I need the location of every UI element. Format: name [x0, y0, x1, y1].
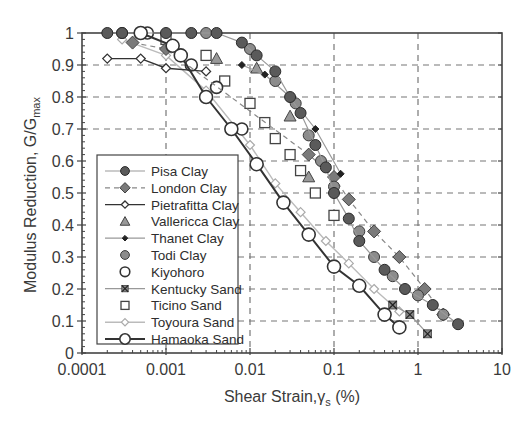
legend-item-hamaoka-sand: Hamaoka Sand: [105, 332, 244, 347]
y-tick-label: 0.5: [52, 185, 74, 202]
y-tick-label: 0: [65, 345, 74, 362]
x-axis-title: Shear Strain,γs (%): [224, 388, 360, 408]
legend-label: Ticino Sand: [151, 298, 222, 313]
x-tick-label: 10: [493, 361, 511, 378]
y-tick-label: 0.3: [52, 249, 74, 266]
modulus-reduction-chart: 0.00010.0010.010.1110 00.10.20.30.40.50.…: [0, 0, 532, 433]
legend-label: Hamaoka Sand: [151, 332, 244, 347]
x-tick-label: 0.001: [146, 361, 186, 378]
y-tick-label: 0.7: [52, 121, 74, 138]
legend-label: Thanet Clay: [151, 231, 224, 246]
x-tick-labels: 0.00010.0010.010.1110: [58, 361, 511, 378]
x-tick-label: 0.1: [323, 361, 345, 378]
legend-label: Pisa Clay: [151, 164, 208, 179]
y-tick-label: 0.9: [52, 57, 74, 74]
y-tick-label: 0.2: [52, 281, 74, 298]
legend-label: Toyoura Sand: [151, 315, 234, 330]
legend-label: Kentucky Sand: [151, 282, 242, 297]
y-tick-label: 0.6: [52, 153, 74, 170]
y-tick-label: 0.1: [52, 313, 74, 330]
legend-label: Todi Clay: [151, 248, 207, 263]
x-tick-label: 1: [414, 361, 423, 378]
x-tick-label: 0.0001: [58, 361, 107, 378]
legend-label: Kiyohoro: [151, 265, 204, 280]
x-tick-label: 0.01: [234, 361, 265, 378]
legend-label: Pietrafitta Clay: [151, 198, 239, 213]
legend-label: London Clay: [151, 181, 227, 196]
y-tick-label: 0.8: [52, 89, 74, 106]
legend: Pisa ClayLondon ClayPietrafitta ClayVall…: [97, 155, 244, 347]
y-tick-labels: 00.10.20.30.40.50.60.70.80.91: [52, 25, 74, 362]
y-tick-label: 0.4: [52, 217, 74, 234]
y-tick-label: 1: [65, 25, 74, 42]
legend-label: Vallericca Clay: [151, 214, 240, 229]
y-axis-title: Modulus Reduction, G/Gmax: [22, 97, 42, 293]
